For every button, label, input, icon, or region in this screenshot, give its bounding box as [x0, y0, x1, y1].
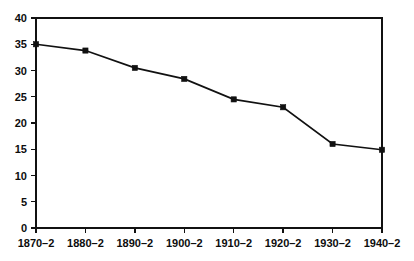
y-tick-label: 25 [15, 91, 27, 103]
y-tick-label: 40 [15, 12, 27, 24]
y-tick-label: 30 [15, 65, 27, 77]
y-tick-label: 20 [15, 117, 27, 129]
data-point-marker [33, 42, 38, 47]
x-tick-label: 1900–2 [166, 237, 203, 249]
x-tick-label: 1870–2 [18, 237, 55, 249]
chart-page: 0510152025303540 1870–21880–21890–21900–… [0, 0, 414, 261]
data-point-marker [182, 76, 187, 81]
data-point-marker [330, 141, 335, 146]
line-chart: 0510152025303540 1870–21880–21890–21900–… [0, 0, 414, 261]
data-point-marker [132, 65, 137, 70]
data-point-marker [231, 97, 236, 102]
data-point-marker [83, 48, 88, 53]
y-tick-label: 0 [21, 222, 27, 234]
data-point-marker [281, 105, 286, 110]
x-tick-label: 1880–2 [67, 237, 104, 249]
x-tick-label: 1910–2 [215, 237, 252, 249]
x-tick-label: 1940–2 [364, 237, 401, 249]
x-tick-label: 1930–2 [314, 237, 351, 249]
data-point-marker [379, 147, 384, 152]
chart-background [0, 0, 414, 261]
y-tick-label: 15 [15, 143, 27, 155]
y-tick-label: 10 [15, 170, 27, 182]
y-tick-label: 35 [15, 38, 27, 50]
x-tick-label: 1920–2 [265, 237, 302, 249]
x-tick-label: 1890–2 [116, 237, 153, 249]
y-tick-label: 5 [21, 196, 27, 208]
